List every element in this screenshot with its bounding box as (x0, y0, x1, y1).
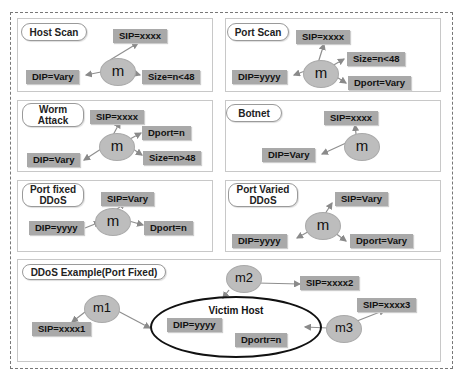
dport-box: Dport=Vary (350, 234, 413, 248)
size-box: Size=n<48 (347, 52, 405, 66)
node-m: m (344, 133, 380, 161)
dip-box: DIP=yyyy (29, 221, 84, 235)
panel-title: Host Scan (21, 23, 87, 41)
panel-title: Botnet (226, 104, 282, 122)
victim-dip-box: DIP=yyyy (167, 318, 222, 332)
victim-dport-box: Dportr=n (235, 333, 287, 347)
node-m: m (100, 58, 136, 86)
source-sip-box: SIP=xxxx1 (32, 322, 91, 336)
dip-box: DIP=Vary (26, 70, 79, 84)
sip-box: SIP=Vary (101, 192, 154, 206)
node-m: m (95, 208, 131, 236)
dport-box: Dport=Vary (348, 76, 411, 90)
source-sip-box: SIP=xxxx2 (300, 276, 359, 290)
source-sip-box: SIP=xxxx3 (357, 298, 416, 312)
sip-box: SIP=xxxx (90, 110, 144, 124)
dip-box: DIP=yyyy (232, 234, 287, 248)
panel-title: Port Varied DDoS (228, 183, 298, 207)
node-m3: m3 (326, 315, 362, 343)
panel-title: Worm Attack (22, 103, 84, 127)
node-m: m (99, 133, 135, 161)
dport-box: Dport=n (144, 221, 193, 235)
panel-title: Port fixed DDoS (22, 183, 84, 207)
sip-box: SIP=Vary (335, 192, 388, 206)
sip-box: SIP=xxxx (113, 29, 167, 43)
node-m: m (303, 60, 339, 88)
size-box: Size=n>48 (143, 151, 201, 165)
sip-box: SIP=xxxx (296, 30, 350, 44)
size-box: Size=n<48 (142, 70, 200, 84)
sip-box: SIP=xxxx (324, 111, 378, 125)
example-title: DDoS Example(Port Fixed) (22, 264, 166, 280)
node-m: m (305, 212, 341, 240)
panel-title: Port Scan (227, 23, 289, 41)
dip-box: DIP=yyyy (232, 70, 287, 84)
node-m2: m2 (226, 265, 262, 293)
dip-box: DIP=Vary (27, 153, 80, 167)
dport-box: Dport=n (142, 126, 191, 140)
victim-host-label: Victim Host (152, 305, 320, 316)
node-m1: m1 (84, 295, 120, 323)
dip-box: DIP=Vary (262, 148, 315, 162)
